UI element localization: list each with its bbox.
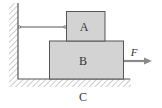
force-arrow-head-icon	[144, 58, 152, 65]
diagram-canvas: A B F C	[0, 0, 162, 108]
surface-label: C	[79, 90, 87, 104]
force-label: F	[130, 46, 138, 58]
block-b-label: B	[79, 54, 87, 68]
string-anchor-block	[64, 26, 66, 28]
wall-hatching	[9, 3, 18, 79]
block-a-label: A	[80, 20, 89, 34]
floor-hatching	[9, 79, 131, 87]
string-anchor-wall	[18, 26, 20, 28]
